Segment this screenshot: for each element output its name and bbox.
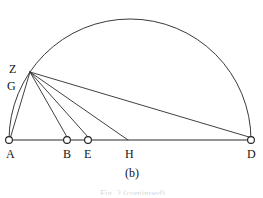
ray-z-to-h [30, 72, 128, 140]
faint-text-fragment: Fig. 2 (continued) [100, 189, 165, 195]
point-label-d: D [247, 148, 256, 160]
vertex-marker-b [64, 137, 71, 144]
ray-z-to-e [30, 72, 88, 137]
point-label-e: E [84, 148, 92, 160]
vertex-marker-e [85, 137, 92, 144]
figure-container: Z G A B E H D (b) Fig. 2 (continued) [0, 0, 263, 198]
point-label-h: H [125, 148, 134, 160]
point-label-a: A [6, 148, 15, 160]
point-label-b: B [63, 148, 71, 160]
point-label-z: Z [9, 63, 17, 75]
vertex-marker-d [248, 137, 255, 144]
ray-z-to-d [30, 72, 249, 137]
vertex-marker-a [6, 137, 13, 144]
semicircle-arc [9, 19, 251, 140]
point-label-g: G [7, 80, 16, 92]
figure-caption: (b) [125, 167, 139, 179]
